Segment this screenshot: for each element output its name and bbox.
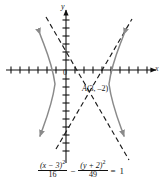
term2-numerator: (y + 2) xyxy=(80,161,102,170)
equation-term-2: (y + 2)2 49 xyxy=(78,162,107,180)
hyperbola-equation: (x − 3)2 16 − (y + 2)2 49 = 1 xyxy=(0,160,163,180)
equation-rhs: 1 xyxy=(119,166,126,176)
hyperbola-right-branch xyxy=(109,34,124,136)
term2-denominator: 49 xyxy=(87,171,99,179)
point-label: A(3, –2) xyxy=(82,85,108,93)
term1-denominator: 16 xyxy=(47,171,59,179)
term1-exponent: 2 xyxy=(62,159,65,165)
point-coordinates: (3, –2) xyxy=(87,84,108,93)
term1-numerator: (x − 3) xyxy=(40,161,62,170)
term2-exponent: 2 xyxy=(103,159,106,165)
equation-operator: − xyxy=(69,166,76,176)
hyperbola-left-branch xyxy=(40,34,55,136)
x-axis-label: x xyxy=(155,65,159,73)
y-axis-label: y xyxy=(61,3,65,11)
equation-equals: = xyxy=(110,166,117,176)
hyperbola-figure: y x 0 A(3, –2) (x − 3)2 16 − (y + 2)2 49 xyxy=(0,0,163,185)
origin-label: 0 xyxy=(63,69,67,77)
axis-group xyxy=(6,10,156,163)
equation-term-1: (x − 3)2 16 xyxy=(38,162,67,180)
